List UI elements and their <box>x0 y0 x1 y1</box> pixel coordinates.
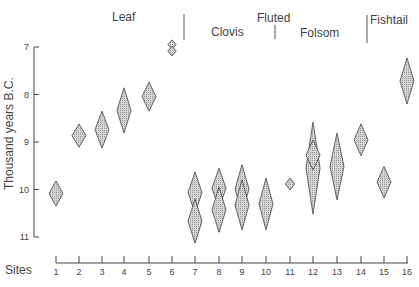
group-label-fishtail: Fishtail <box>370 13 408 27</box>
site-12-marker <box>306 122 320 214</box>
x-tick-label: 2 <box>76 267 81 277</box>
site-4-marker <box>117 88 131 133</box>
range-diamond <box>72 124 86 147</box>
site-1-marker <box>49 181 63 206</box>
range-diamond <box>400 58 414 104</box>
site-6-marker <box>168 40 176 56</box>
x-axis-label: Sites <box>5 263 32 277</box>
range-diamond <box>188 199 202 243</box>
x-tick-label: 6 <box>169 267 174 277</box>
y-tick-label: 11 <box>20 232 29 242</box>
y-tick-label: 7 <box>24 42 29 52</box>
site-15-marker <box>377 166 391 198</box>
x-axis: 12345678910111213141516 <box>53 256 412 277</box>
site-8-marker <box>212 168 226 232</box>
y-axis: 7891011 <box>19 42 39 242</box>
y-tick-label: 10 <box>19 185 29 195</box>
chart: Leaf Clovis Fluted Folsom Fishtail 78910… <box>0 0 419 287</box>
range-diamond <box>285 178 294 190</box>
x-tick-label: 7 <box>192 267 197 277</box>
y-tick-label: 9 <box>24 137 29 147</box>
x-tick-label: 11 <box>285 267 294 277</box>
x-tick-label: 9 <box>239 267 244 277</box>
range-diamond <box>142 82 156 111</box>
group-label-folsom: Folsom <box>300 26 339 40</box>
x-tick-label: 3 <box>99 267 104 277</box>
group-label-clovis: Clovis <box>211 25 244 39</box>
range-diamond <box>259 178 273 230</box>
group-headers: Leaf Clovis Fluted Folsom Fishtail <box>112 10 408 43</box>
range-diamond <box>354 124 368 156</box>
range-diamond <box>377 166 391 198</box>
range-diamond <box>168 46 176 56</box>
site-2-marker <box>72 124 86 147</box>
x-tick-label: 5 <box>146 267 151 277</box>
range-diamond <box>117 88 131 133</box>
x-tick-label: 16 <box>402 267 412 277</box>
site-14-marker <box>354 124 368 156</box>
group-label-leaf: Leaf <box>112 10 136 24</box>
x-tick-label: 8 <box>216 267 221 277</box>
x-tick-label: 15 <box>379 267 389 277</box>
group-label-fluted: Fluted <box>257 11 290 25</box>
site-16-marker <box>400 58 414 104</box>
range-diamond <box>95 111 109 148</box>
range-diamond <box>330 133 344 200</box>
x-tick-label: 4 <box>121 267 126 277</box>
data-points <box>49 40 414 243</box>
range-diamond <box>49 181 63 206</box>
x-tick-label: 12 <box>308 267 318 277</box>
site-5-marker <box>142 82 156 111</box>
site-7-marker <box>188 172 202 243</box>
x-tick-label: 10 <box>261 267 271 277</box>
y-tick-label: 8 <box>24 90 29 100</box>
site-9-marker <box>235 165 249 230</box>
site-13-marker <box>330 133 344 200</box>
site-11-marker <box>285 178 294 190</box>
x-tick-label: 13 <box>332 267 342 277</box>
y-axis-label: Thousand years B.C. <box>2 77 16 190</box>
x-tick-label: 14 <box>356 267 366 277</box>
site-3-marker <box>95 111 109 148</box>
site-10-marker <box>259 178 273 230</box>
x-tick-label: 1 <box>53 267 58 277</box>
